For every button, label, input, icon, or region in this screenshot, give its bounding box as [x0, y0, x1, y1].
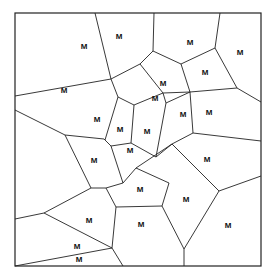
cell-label: M — [116, 32, 123, 41]
cell-label: M — [202, 68, 209, 77]
cell-label: M — [117, 125, 124, 134]
cell-edge — [215, 13, 220, 48]
cell-edge — [15, 213, 44, 219]
cell-label: M — [160, 79, 167, 88]
cell-edge — [172, 133, 193, 144]
cell-edge — [112, 207, 116, 248]
cell-edge — [237, 88, 261, 102]
cell-labels: MMMMMMMMMMMMMMMMMMMMMMM — [61, 32, 244, 264]
cell-label: M — [187, 38, 194, 47]
voronoi-diagram: MMMMMMMMMMMMMMMMMMMMMMM — [0, 0, 274, 280]
cell-edge — [112, 248, 123, 266]
cell-edge — [166, 92, 190, 103]
cell-edge — [95, 13, 111, 79]
cell-edge — [111, 79, 118, 97]
cell-edge — [111, 64, 140, 79]
cell-label: M — [76, 255, 83, 264]
cell-edge — [162, 206, 184, 249]
cell-label: M — [204, 155, 211, 164]
cell-edge — [123, 168, 136, 183]
cell-label: M — [152, 94, 159, 103]
cell-label: M — [206, 108, 213, 117]
cell-label: M — [144, 127, 151, 136]
cell-edge — [116, 206, 162, 207]
cell-edge — [65, 135, 91, 188]
cell-label: M — [86, 216, 93, 225]
cell-label: M — [127, 146, 134, 155]
cell-edge — [153, 51, 181, 64]
cell-edge — [136, 168, 169, 183]
cell-edge — [163, 93, 166, 103]
cell-edge — [181, 48, 215, 64]
cell-edge — [190, 92, 193, 133]
cell-label: M — [138, 220, 145, 229]
cell-edge — [134, 93, 163, 105]
cell-edge — [163, 92, 190, 93]
cell-edge — [181, 64, 190, 92]
cell-edge — [190, 88, 237, 92]
cell-edge — [136, 144, 172, 168]
cell-edge — [153, 13, 154, 51]
cell-edge — [106, 183, 123, 188]
cell-label: M — [61, 86, 68, 95]
cell-edge — [193, 133, 261, 141]
cell-label: M — [74, 242, 81, 251]
cell-edge — [131, 143, 156, 157]
cell-edge — [172, 144, 219, 191]
cell-label: M — [81, 42, 88, 51]
cell-edge — [65, 135, 104, 139]
cell-label: M — [237, 48, 244, 57]
cell-edge — [162, 183, 169, 206]
cell-edge — [111, 146, 123, 183]
cell-edge — [15, 248, 112, 266]
cell-label: M — [225, 221, 232, 230]
cell-edge — [106, 188, 116, 207]
cell-edge — [15, 110, 65, 135]
cell-label: M — [91, 156, 98, 165]
cell-label: M — [183, 195, 190, 204]
cell-label: M — [180, 110, 187, 119]
cell-edge — [140, 51, 153, 64]
cell-label: M — [137, 185, 144, 194]
cell-edge — [118, 97, 134, 105]
cell-edge — [104, 139, 111, 146]
cell-edge — [215, 48, 237, 88]
cell-edge — [44, 188, 91, 213]
cell-label: M — [94, 115, 101, 124]
cell-edge — [131, 105, 134, 143]
cell-edge — [219, 176, 261, 191]
